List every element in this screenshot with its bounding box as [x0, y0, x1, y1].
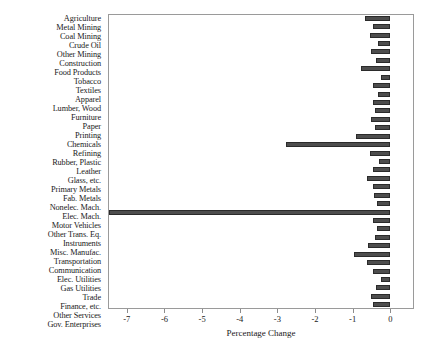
category-label: Crude Oil — [69, 41, 104, 50]
bar — [370, 33, 390, 38]
x-tick-label: -2 — [311, 314, 318, 324]
x-tick — [202, 309, 203, 313]
category-label: Transportation — [54, 257, 104, 266]
bar — [286, 142, 390, 147]
x-tick — [390, 309, 391, 313]
bar — [373, 184, 390, 189]
category-label: Communication — [49, 266, 104, 275]
bar — [354, 252, 391, 257]
category-label: Other Mining — [57, 50, 104, 59]
category-label: Refining — [73, 149, 104, 158]
bar — [378, 41, 390, 46]
category-label: Nonelec. Mach. — [50, 203, 104, 212]
category-label: Misc. Manufac. — [50, 248, 104, 257]
bar — [373, 100, 390, 105]
category-label: Construction — [59, 59, 104, 68]
bar — [373, 302, 390, 307]
bar — [378, 92, 390, 97]
bar — [371, 117, 390, 122]
category-label: Glass, etc. — [68, 176, 104, 185]
category-label: Fab. Metals — [63, 194, 104, 203]
x-tick — [164, 309, 165, 313]
category-label: Instruments — [63, 239, 104, 248]
category-label: Other Trans. Eq. — [48, 230, 104, 239]
x-tick-label: -6 — [161, 314, 168, 324]
x-tick — [353, 309, 354, 313]
category-label: Coal Mining — [60, 32, 104, 41]
bar — [381, 277, 391, 282]
bar — [376, 58, 390, 63]
bar — [109, 210, 391, 215]
x-tick — [277, 309, 278, 313]
bar — [373, 218, 390, 223]
bar — [367, 176, 391, 181]
x-tick — [127, 309, 128, 313]
category-label: Metal Mining — [56, 23, 104, 32]
bar — [377, 226, 390, 231]
x-tick — [240, 309, 241, 313]
bar — [373, 167, 390, 172]
bar — [379, 159, 390, 164]
category-label: Food Products — [54, 68, 104, 77]
bar — [373, 269, 390, 274]
bar — [375, 108, 390, 113]
bar — [371, 49, 390, 54]
bar — [381, 75, 390, 80]
bar — [365, 16, 390, 21]
bar — [373, 83, 391, 88]
bar — [373, 24, 391, 29]
bar — [356, 134, 391, 139]
category-label: Tobacco — [74, 77, 104, 86]
x-tick-label: -5 — [199, 314, 206, 324]
category-label: Apparel — [75, 95, 104, 104]
bar — [375, 235, 390, 240]
category-label: Printing — [75, 131, 104, 140]
bar-series — [108, 14, 414, 309]
category-label: Textiles — [76, 86, 104, 95]
category-label: Lumber, Wood — [53, 104, 104, 113]
bar — [374, 193, 390, 198]
bar — [375, 125, 390, 130]
plot-surface — [108, 14, 414, 309]
category-label: Agriculture — [64, 14, 104, 23]
category-label: Finance, etc. — [60, 302, 104, 311]
category-axis-labels: AgricultureMetal MiningCoal MiningCrude … — [0, 14, 104, 309]
category-label: Other Services — [53, 311, 104, 320]
x-tick-label: -7 — [123, 314, 130, 324]
bar — [371, 294, 390, 299]
bar-chart: AgricultureMetal MiningCoal MiningCrude … — [0, 0, 425, 349]
category-label: Rubber, Plastic — [52, 158, 104, 167]
x-tick-label: 0 — [388, 314, 392, 324]
x-axis-title: Percentage Change — [108, 328, 414, 338]
bar — [376, 285, 390, 290]
category-label: Gas Utilities — [61, 284, 104, 293]
category-label: Trade — [82, 293, 104, 302]
category-label: Furniture — [71, 113, 104, 122]
bar — [370, 151, 391, 156]
category-label: Gov. Enterprises — [47, 320, 104, 329]
bar — [361, 66, 391, 71]
bar — [368, 243, 390, 248]
category-label: Chemicals — [67, 140, 104, 149]
category-label: Elec. Utilities — [57, 275, 104, 284]
category-label: Paper — [83, 122, 104, 131]
x-tick — [315, 309, 316, 313]
x-tick-label: -3 — [274, 314, 281, 324]
x-tick-label: -1 — [349, 314, 356, 324]
bar — [367, 260, 391, 265]
category-label: Primary Metals — [51, 185, 104, 194]
category-label: Elec. Mach. — [62, 212, 104, 221]
x-tick-label: -4 — [236, 314, 243, 324]
x-axis: -7-6-5-4-3-2-10 — [108, 309, 414, 315]
category-label: Leather — [76, 167, 104, 176]
category-label: Motor Vehicles — [52, 221, 104, 230]
bar — [377, 201, 390, 206]
